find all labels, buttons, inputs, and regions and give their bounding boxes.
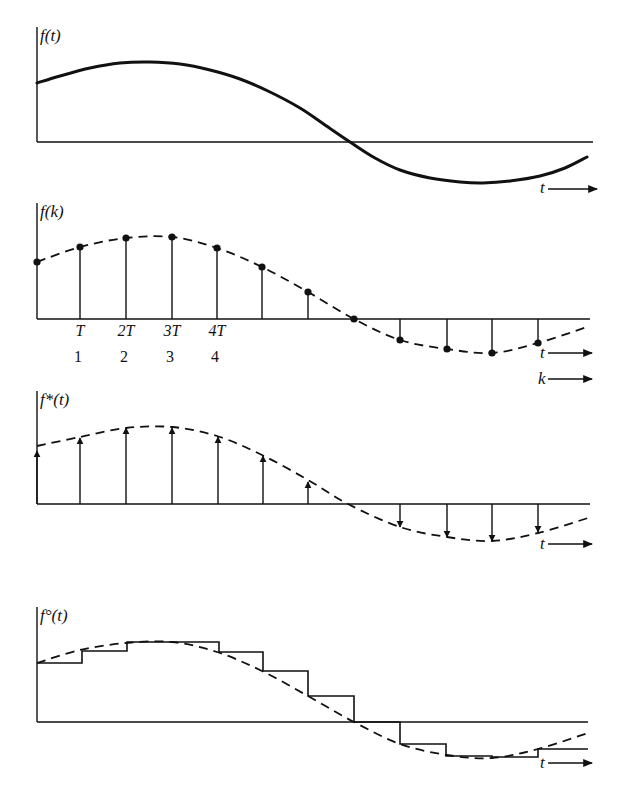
time-axis-label: t	[540, 178, 546, 197]
sample-point	[396, 336, 403, 343]
sample-point	[168, 233, 175, 240]
continuous-curve	[37, 62, 587, 183]
time-axis-label: t	[540, 534, 546, 553]
continuous-signal-panel: f(t)t	[37, 26, 597, 197]
tick-label-time: 3T	[163, 322, 182, 339]
time-axis-label: t	[540, 753, 546, 772]
index-axis-label: k	[538, 369, 546, 388]
sample-point	[122, 234, 129, 241]
envelope-curve	[37, 426, 588, 541]
y-axis-label: f*(t)	[40, 390, 70, 409]
tick-label-time: 2T	[118, 322, 136, 339]
sample-point	[443, 345, 450, 352]
sample-point	[76, 243, 83, 250]
sample-point	[350, 315, 357, 322]
tick-label-index: 4	[211, 348, 219, 365]
sample-point	[213, 244, 220, 251]
sampling-diagram: f(t)t f(k)T12T23T34T4tk f*(t)t f°(t)t	[0, 0, 622, 800]
y-axis-label: f(k)	[40, 202, 64, 221]
discrete-samples-panel: f(k)T12T23T34T4tk	[33, 202, 592, 388]
tick-label-time: 4T	[209, 322, 227, 339]
y-axis-label: f°(t)	[40, 606, 68, 625]
sample-point	[258, 263, 265, 270]
impulse-sampled-panel: f*(t)t	[37, 390, 592, 553]
tick-label-index: 3	[166, 348, 174, 365]
envelope-curve	[37, 641, 588, 758]
tick-label-index: 2	[120, 348, 128, 365]
y-axis-label: f(t)	[40, 26, 61, 45]
sample-point	[304, 288, 311, 295]
time-axis-label: t	[540, 343, 546, 362]
tick-label-time: T	[76, 322, 86, 339]
sample-point	[33, 258, 40, 265]
sample-point	[488, 349, 495, 356]
zero-order-hold-panel: f°(t)t	[37, 606, 592, 772]
tick-label-index: 1	[74, 348, 82, 365]
